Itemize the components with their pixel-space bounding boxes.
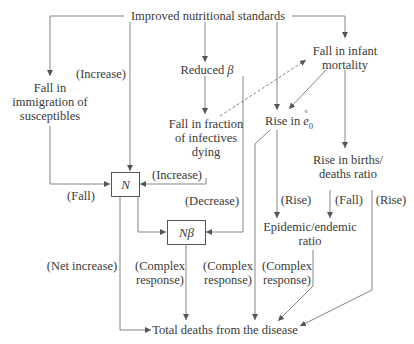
node-N-box: N xyxy=(111,172,140,197)
edge-label-text: (Increase) xyxy=(76,67,126,81)
node-reduced-beta: Reduced β xyxy=(167,63,247,77)
node-label-line: Fall in xyxy=(5,81,95,95)
edge-label-net-increase: (Net increase) xyxy=(46,259,118,273)
edge-label-complex-response-a: (Complex response) xyxy=(134,259,186,287)
node-label: Rise in xyxy=(265,114,300,128)
node-label-line: Epidemic/endemic xyxy=(260,220,360,234)
node-label-line: Fall in infant xyxy=(300,44,390,58)
edge-label-text: (Net increase) xyxy=(47,259,117,273)
node-label-line: of infectives xyxy=(160,131,252,145)
node-total-deaths: Total deaths from the disease xyxy=(152,323,298,337)
node-fall-in-immigration: Fall in immigration of susceptibles xyxy=(5,81,95,123)
edge-label-fall-left: (Fall) xyxy=(64,189,98,203)
node-N-beta-box: Nβ xyxy=(167,220,206,245)
node-rise-in-e0: Rise in ° e0 xyxy=(254,114,324,134)
node-fall-in-fraction-infectives-dying: Fall in fraction of infectives dying xyxy=(160,117,252,159)
node-fall-in-infant-mortality: Fall in infant mortality xyxy=(300,44,390,72)
node-epidemic-endemic-ratio: Epidemic/endemic ratio xyxy=(260,220,360,248)
edge-label-rise-a: (Rise) xyxy=(280,193,312,207)
node-label-line: Rise in births/ xyxy=(303,153,393,167)
edge-label-text: (Fall) xyxy=(335,193,363,207)
diagram-canvas: Improved nutritional standards Fall in i… xyxy=(0,0,414,344)
node-label-line: mortality xyxy=(300,58,390,72)
node-label: Reduced xyxy=(180,63,224,77)
edge-label-text: (Decrease) xyxy=(185,194,239,208)
edge-label-line: response) xyxy=(134,273,186,287)
e0-ring: ° xyxy=(304,106,308,120)
e0-subscript: 0 xyxy=(309,122,313,131)
e0-symbol: ° e0 xyxy=(303,114,313,134)
edge-label-fall-b: (Fall) xyxy=(334,193,364,207)
node-label-line: immigration of xyxy=(5,95,95,109)
node-label-line: ratio xyxy=(260,234,360,248)
edge-label-complex-response-c: (Complex response) xyxy=(261,259,313,287)
N-beta-symbol: Nβ xyxy=(179,225,194,241)
node-improved-nutritional-standards: Improved nutritional standards xyxy=(126,9,290,23)
edge-label-rise-c: (Rise) xyxy=(375,193,407,207)
edge-label-text: (Fall) xyxy=(67,189,95,203)
edge-label-text: (Rise) xyxy=(281,193,312,207)
edge-label-text: (Rise) xyxy=(376,193,407,207)
edge-label-line: response) xyxy=(202,273,254,287)
node-rise-in-births-deaths-ratio: Rise in births/ deaths ratio xyxy=(303,153,393,181)
node-label-line: susceptibles xyxy=(5,109,95,123)
beta-symbol: β xyxy=(227,63,233,77)
edge-label-complex-response-b: (Complex response) xyxy=(202,259,254,287)
edge-label-line: (Complex xyxy=(202,259,254,273)
edge-label-text: (Increase) xyxy=(152,168,202,182)
edge-label-increase-top: (Increase) xyxy=(76,67,126,81)
edge-label-decrease: (Decrease) xyxy=(183,194,241,208)
node-label-line: deaths ratio xyxy=(303,167,393,181)
edge-label-line: response) xyxy=(261,273,313,287)
node-label: Total deaths from the disease xyxy=(152,323,298,337)
node-label-line: Fall in fraction xyxy=(160,117,252,131)
node-label-line: dying xyxy=(160,145,252,159)
edge-label-line: (Complex xyxy=(134,259,186,273)
edge-label-increase-right: (Increase) xyxy=(150,168,204,182)
N-symbol: N xyxy=(121,177,130,193)
node-label: Improved nutritional standards xyxy=(131,9,285,23)
edge-label-line: (Complex xyxy=(261,259,313,273)
